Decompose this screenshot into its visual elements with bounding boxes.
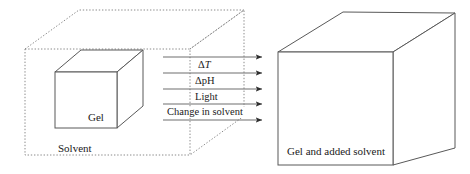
gel-and-added-solvent-label: Gel and added solvent [287,146,385,157]
stimulus-label-light: Light [193,92,220,103]
stimulus-label-change-in-solvent: Change in solvent [165,107,245,118]
solvent-top-face [25,10,244,49]
temperature-symbol: T [205,59,211,70]
gel-label: Gel [88,112,104,123]
stimulus-label-delta-ph: ΔpH [193,76,217,87]
solvent-label: Solvent [58,143,92,154]
stimulus-label-delta-t: ΔT [196,60,213,71]
swollen-gel-cube [278,12,455,165]
gel-front-face [55,72,117,128]
gel-swelling-diagram: Gel Solvent Gel and added solvent ΔT ΔpH… [0,0,470,174]
delta-symbol: Δ [198,59,205,70]
